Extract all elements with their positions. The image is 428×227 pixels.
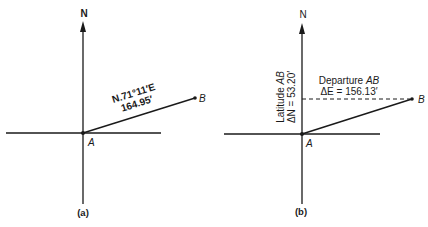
panel-a: N A B N.71°11′E 164.95′ (a) [6,8,206,218]
latitude-label: Latitude AB [275,71,286,123]
course-line-ab-b [302,99,412,134]
caption-b: (b) [295,206,307,217]
north-arrow-icon [80,21,86,32]
departure-value: ΔE = 156.13′ [320,86,377,97]
point-b-label: B [199,93,206,104]
point-b-dot [193,96,197,100]
latitude-value: ΔN = 53.20′ [286,71,297,123]
point-a-label: A [87,137,95,148]
departure-label: Departure AB [319,75,380,86]
point-a-dot [81,131,85,135]
caption-a: (a) [77,207,89,218]
survey-diagram: N A B N.71°11′E 164.95′ (a) N A B [0,0,428,227]
point-a-label: A [305,138,313,149]
point-b-dot [410,97,414,101]
point-b-label: B [418,94,425,105]
point-a-dot [300,132,304,136]
north-label-a: N [80,8,87,19]
panel-b: N A B Departure AB ΔE = 156.13′ Latitude… [224,9,425,217]
north-label-b: N [299,9,306,20]
north-arrow-icon [299,23,305,34]
